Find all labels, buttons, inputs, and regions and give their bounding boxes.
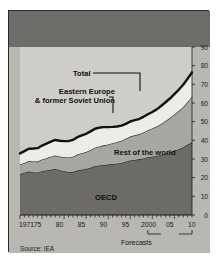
series-label-oecd: OECD xyxy=(95,193,117,202)
series-label-eastern-europe-line1: Eastern Europe xyxy=(59,87,115,96)
y-axis-tick-label: 30 xyxy=(195,156,208,163)
series-label-eastern-europe-line2: & former Soviet Union xyxy=(35,96,115,105)
y-axis-tick-label: 40 xyxy=(195,137,208,144)
x-axis-tick-label: 10 xyxy=(188,221,196,229)
x-axis-tick-label: 95 xyxy=(122,221,130,229)
y-axis-tick-label: 80 xyxy=(195,62,208,69)
y-axis-tick-label: 10 xyxy=(195,193,208,200)
y-axis-tick-label: 60 xyxy=(195,100,208,107)
series-label-total: Total xyxy=(73,69,91,78)
source-label: Source: IEA xyxy=(20,245,54,253)
x-axis-tick-label: 2000 xyxy=(141,221,156,229)
forecasts-label: Forecasts xyxy=(121,239,152,247)
x-axis-tick-label: 75 xyxy=(34,221,42,229)
figure-root: Revving up World demand for primary ener… xyxy=(0,0,217,261)
x-axis-tick-label: 80 xyxy=(56,221,64,229)
y-axis-tick-label: 90 xyxy=(195,44,208,51)
chart-svg xyxy=(9,11,210,253)
y-axis-tick-label: 50 xyxy=(195,118,208,125)
chart-plate: Revving up World demand for primary ener… xyxy=(8,10,209,252)
y-axis-tick-label: 0 xyxy=(195,212,208,219)
plot-area: Total Eastern Europe & former Soviet Uni… xyxy=(9,11,210,253)
x-axis-tick-label: 85 xyxy=(78,221,86,229)
x-axis-tick-label: 1971 xyxy=(19,221,34,229)
series-label-eastern-europe: Eastern Europe & former Soviet Union xyxy=(19,87,115,105)
x-axis-tick-label: 90 xyxy=(100,221,108,229)
series-label-rest-of-world: Rest of the world xyxy=(114,148,176,157)
y-axis-tick-label: 20 xyxy=(195,174,208,181)
x-axis-tick-label: 05 xyxy=(166,221,174,229)
y-axis-tick-label: 70 xyxy=(195,81,208,88)
